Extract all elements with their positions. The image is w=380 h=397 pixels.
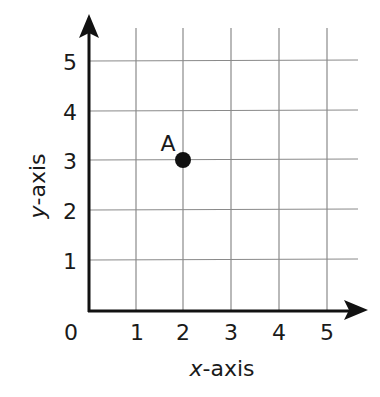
grid bbox=[89, 28, 358, 311]
y-axis-label-var: y bbox=[25, 205, 50, 220]
y-tick-5: 5 bbox=[63, 50, 77, 75]
x-tick-2: 2 bbox=[176, 320, 190, 345]
grid-hline-4 bbox=[89, 110, 358, 111]
point-a-marker bbox=[175, 152, 191, 168]
y-tick-4: 4 bbox=[63, 100, 77, 125]
y-tick-2: 2 bbox=[63, 199, 77, 224]
x-tick-4: 4 bbox=[272, 320, 286, 345]
y-tick-3: 3 bbox=[63, 149, 77, 174]
y-tick-1: 1 bbox=[63, 249, 77, 274]
y-tick-labels: 5 4 3 2 1 bbox=[63, 50, 77, 274]
x-axis-label-var: x bbox=[188, 356, 203, 381]
origin-label: 0 bbox=[64, 320, 78, 345]
grid-hline-1 bbox=[89, 259, 358, 260]
grid-hline-3 bbox=[89, 159, 358, 160]
y-axis-label: y-axis bbox=[25, 153, 50, 219]
x-tick-5: 5 bbox=[320, 320, 334, 345]
coordinate-plane: 5 4 3 2 1 0 1 2 3 4 5 x-axis y-axis A bbox=[0, 0, 380, 397]
x-tick-1: 1 bbox=[130, 320, 144, 345]
x-axis-label-rest: -axis bbox=[203, 356, 255, 381]
x-tick-labels: 0 1 2 3 4 5 bbox=[64, 320, 334, 345]
y-axis-label-rest: -axis bbox=[25, 153, 50, 205]
point-a-label: A bbox=[160, 131, 175, 156]
x-tick-3: 3 bbox=[224, 320, 238, 345]
grid-hline-2 bbox=[89, 209, 358, 210]
grid-hline-5 bbox=[89, 60, 358, 61]
point-a: A bbox=[160, 131, 191, 168]
x-axis-label: x-axis bbox=[188, 356, 254, 381]
